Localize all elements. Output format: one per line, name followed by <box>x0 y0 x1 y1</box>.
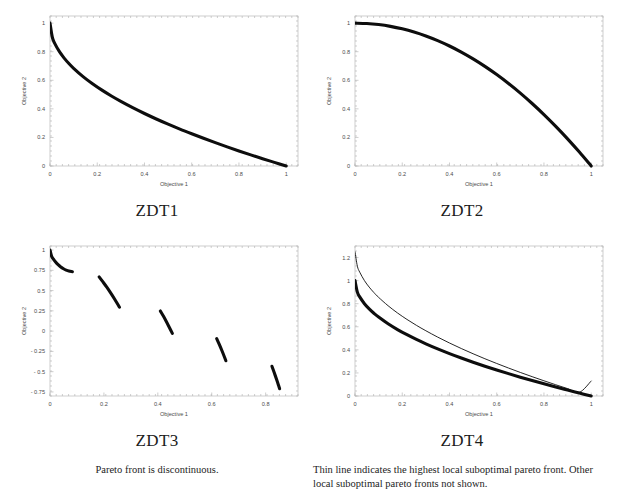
x-tick-label: 0.4 <box>141 171 149 177</box>
plot-svg-zdt1: 00.20.40.60.8100.20.40.60.81Objective 1O… <box>6 4 308 200</box>
y-tick-label: 0.4 <box>342 347 350 353</box>
y-tick-label: 0.2 <box>342 370 350 376</box>
x-tick-label: 0.2 <box>398 171 406 177</box>
y-axis-title: Objective 2 <box>326 307 332 335</box>
zdt-benchmark-figure-grid: 00.20.40.60.8100.20.40.60.81Objective 1O… <box>0 0 617 501</box>
y-tick-label: 1 <box>347 20 350 26</box>
y-axis-title: Objective 2 <box>21 307 27 335</box>
y-tick-label: 0.8 <box>342 301 350 307</box>
panel-title-zdt2: ZDT2 <box>311 201 613 221</box>
plot-zdt2: 00.20.40.60.8100.20.40.60.81Objective 1O… <box>311 4 613 200</box>
x-tick-label: 0.6 <box>188 171 196 177</box>
plot-svg-zdt3: 00.20.40.60.8- 0.75- 0.5- 0.2500.250.50.… <box>6 234 308 430</box>
y-tick-label: 0.75 <box>34 267 45 273</box>
x-tick-label: 0.6 <box>208 401 216 407</box>
x-tick-label: 0.4 <box>154 401 162 407</box>
y-tick-label: 0.2 <box>37 134 45 140</box>
curve-segment-3 <box>160 311 172 333</box>
y-tick-label: 0 <box>347 163 350 169</box>
y-tick-label: 0 <box>42 163 45 169</box>
plot-frame <box>50 246 298 396</box>
y-tick-label: 0.6 <box>342 324 350 330</box>
panel-caption-zdt3: Pareto front is discontinuous. <box>6 463 308 477</box>
y-tick-label: 1.2 <box>342 255 350 261</box>
x-tick-label: 0.2 <box>398 401 406 407</box>
y-tick-label: 0.2 <box>342 134 350 140</box>
x-tick-label: 0 <box>48 401 51 407</box>
plot-zdt3: 00.20.40.60.8- 0.75- 0.5- 0.2500.250.50.… <box>6 234 308 430</box>
y-tick-label: 1 <box>42 247 45 253</box>
panel-zdt3: 00.20.40.60.8- 0.75- 0.5- 0.2500.250.50.… <box>6 234 308 492</box>
y-tick-label: 0.8 <box>37 49 45 55</box>
x-axis-title: Objective 1 <box>160 181 188 187</box>
panel-caption-zdt4: Thin line indicates the highest local su… <box>311 463 613 492</box>
x-axis-title: Objective 1 <box>160 411 188 417</box>
y-tick-label: 1 <box>347 278 350 284</box>
plot-frame <box>50 16 298 166</box>
panel-zdt1: 00.20.40.60.8100.20.40.60.81Objective 1O… <box>6 4 308 234</box>
panel-zdt4: 00.20.40.60.8100.20.40.60.811.2Objective… <box>311 234 613 492</box>
y-tick-label: 0.8 <box>342 49 350 55</box>
x-tick-label: 0.8 <box>540 401 548 407</box>
x-tick-label: 1 <box>590 401 593 407</box>
panel-title-zdt4: ZDT4 <box>311 431 613 451</box>
plot-zdt4: 00.20.40.60.8100.20.40.60.811.2Objective… <box>311 234 613 430</box>
y-tick-label: - 0.25 <box>31 348 45 354</box>
y-tick-label: - 0.5 <box>34 369 45 375</box>
x-tick-label: 0.2 <box>93 171 101 177</box>
y-tick-label: - 0.75 <box>31 389 45 395</box>
x-tick-label: 0.4 <box>446 401 454 407</box>
y-tick-label: 0.5 <box>37 288 45 294</box>
curve-segment-5 <box>272 366 280 388</box>
y-tick-label: 0.25 <box>34 308 45 314</box>
curve-pareto-front <box>50 23 286 166</box>
x-axis-title: Objective 1 <box>465 411 493 417</box>
y-axis-title: Objective 2 <box>21 77 27 105</box>
x-tick-label: 0.6 <box>493 171 501 177</box>
plot-frame <box>355 16 603 166</box>
plot-frame <box>355 246 603 396</box>
x-tick-label: 0 <box>48 171 51 177</box>
x-tick-label: 0.8 <box>262 401 270 407</box>
x-tick-label: 0.6 <box>493 401 501 407</box>
plot-zdt1: 00.20.40.60.8100.20.40.60.81Objective 1O… <box>6 4 308 200</box>
x-tick-label: 1 <box>590 171 593 177</box>
curve-pareto-front <box>355 23 591 166</box>
panel-zdt2: 00.20.40.60.8100.20.40.60.81Objective 1O… <box>311 4 613 234</box>
x-tick-label: 1 <box>285 171 288 177</box>
x-tick-label: 0.8 <box>235 171 243 177</box>
y-tick-label: 0.4 <box>37 106 45 112</box>
curve-segment-1 <box>50 250 72 272</box>
curve-global-pareto-front <box>355 281 591 396</box>
panel-title-zdt1: ZDT1 <box>6 201 308 221</box>
y-tick-label: 0 <box>347 393 350 399</box>
y-tick-label: 0.4 <box>342 106 350 112</box>
y-tick-label: 1 <box>42 20 45 26</box>
curve-segment-2 <box>99 277 119 307</box>
y-tick-label: 0.6 <box>342 77 350 83</box>
x-tick-label: 0 <box>353 171 356 177</box>
y-tick-label: 0.6 <box>37 77 45 83</box>
panel-title-zdt3: ZDT3 <box>6 431 308 451</box>
curve-segment-4 <box>217 339 226 361</box>
plot-svg-zdt4: 00.20.40.60.8100.20.40.60.811.2Objective… <box>311 234 613 430</box>
x-tick-label: 0.2 <box>100 401 108 407</box>
curve-highest-local-suboptimal-front <box>355 252 591 393</box>
y-tick-label: 0 <box>42 328 45 334</box>
x-tick-label: 0.4 <box>446 171 454 177</box>
y-axis-title: Objective 2 <box>326 77 332 105</box>
plot-svg-zdt2: 00.20.40.60.8100.20.40.60.81Objective 1O… <box>311 4 613 200</box>
x-tick-label: 0 <box>353 401 356 407</box>
x-axis-title: Objective 1 <box>465 181 493 187</box>
x-tick-label: 0.8 <box>540 171 548 177</box>
